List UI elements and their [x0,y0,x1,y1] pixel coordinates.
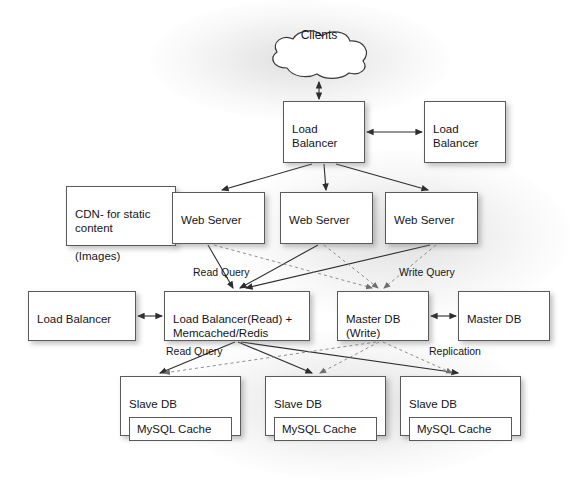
edge-label-write-query: Write Query [399,266,455,278]
edge-lb-to-web1 [222,164,312,190]
node-slave-db-1[interactable]: Slave DB MySQL Cache [120,376,241,436]
web-server-2-label: Web Server [289,214,350,226]
slave-db-3-cache[interactable]: MySQL Cache [409,417,512,441]
lb-secondary-line2: Balancer [433,136,497,150]
web-server-1-label: Web Server [181,214,242,226]
web-server-3-label: Web Server [394,214,455,226]
cdn-line1: CDN- for static [75,208,150,220]
edge-web2-to-masterdb [324,245,378,288]
node-web-server-2[interactable]: Web Server [280,192,373,244]
lb-secondary-line1: Load [433,123,459,135]
node-load-balancer-primary[interactable]: Load Balancer [283,101,365,163]
edge-label-replication: Replication [429,345,481,357]
node-load-balancer-read-cache[interactable]: Load Balancer(Read) + Memcached/Redis [164,291,310,341]
node-slave-db-3[interactable]: Slave DB MySQL Cache [400,376,521,436]
master-db-replica-label: Master DB [467,313,521,325]
edge-lb-to-web2 [324,164,326,190]
edge-web2-to-lbread [240,245,318,288]
node-master-db-replica[interactable]: Master DB [458,291,550,341]
load-balancer-left-label: Load Balancer [37,313,111,325]
lb-primary-line1: Load [292,123,318,135]
node-master-db-write[interactable]: Master DB (Write) [337,291,429,341]
slave-db-3-label: Slave DB [409,398,457,410]
slave-db-1-cache[interactable]: MySQL Cache [129,417,232,441]
cdn-line2: content [75,221,167,235]
node-web-server-3[interactable]: Web Server [385,192,478,244]
node-web-server-1[interactable]: Web Server [172,192,265,244]
slave-db-2-label: Slave DB [274,398,322,410]
slave-db-2-cache[interactable]: MySQL Cache [274,417,377,441]
edge-label-read-query-bottom: Read Query [166,345,223,357]
master-db-write-line1: Master DB [346,313,400,325]
lb-primary-line2: Balancer [292,136,356,150]
node-load-balancer-secondary[interactable]: Load Balancer [424,101,506,163]
lb-read-line2: Memcached/Redis [173,326,301,340]
node-slave-db-2[interactable]: Slave DB MySQL Cache [265,376,386,436]
clients-label: Clients [265,28,373,42]
edge-label-read-query-top: Read Query [193,266,250,278]
node-load-balancer-left[interactable]: Load Balancer [28,291,136,341]
slave-db-1-label: Slave DB [129,398,177,410]
master-db-write-line2: (Write) [346,326,420,340]
cdn-line3: (Images) [75,249,167,263]
lb-read-line1: Load Balancer(Read) + [173,313,292,325]
node-cdn[interactable]: CDN- for static content (Images) [66,186,176,246]
edge-lb-to-web3 [336,164,428,190]
